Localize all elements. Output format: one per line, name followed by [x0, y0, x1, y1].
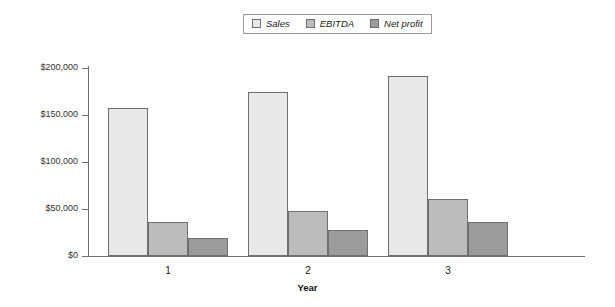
y-axis-tick — [82, 162, 88, 163]
chart-legend: SalesEBITDANet profit — [243, 14, 432, 34]
y-axis-tick-label: $100,000 — [0, 157, 78, 166]
legend-entry[interactable]: Sales — [252, 19, 290, 29]
legend-swatch-icon — [306, 19, 315, 28]
plot-area — [88, 68, 585, 256]
x-axis-tick-label: 3 — [428, 266, 468, 276]
y-axis-tick — [82, 68, 88, 69]
y-axis-tick-label: $50,000 — [0, 204, 78, 213]
bar[interactable] — [248, 92, 288, 256]
legend-label: Sales — [266, 19, 290, 29]
legend-label: EBITDA — [320, 19, 354, 29]
legend-label: Net profit — [384, 19, 423, 29]
bar[interactable] — [428, 199, 468, 256]
x-axis-tick-label: 2 — [288, 266, 328, 276]
y-axis-tick-label: $0 — [0, 251, 78, 260]
bar-chart: SalesEBITDANet profit Year $0$50,000$100… — [0, 0, 615, 307]
y-axis-tick — [82, 115, 88, 116]
bar[interactable] — [388, 76, 428, 256]
x-axis-tick-label: 1 — [148, 266, 188, 276]
legend-entry[interactable]: Net profit — [370, 19, 423, 29]
y-axis-tick-label: $150,000 — [0, 110, 78, 119]
y-axis-tick — [82, 209, 88, 210]
bar[interactable] — [188, 238, 228, 256]
bar[interactable] — [108, 108, 148, 256]
legend-entry[interactable]: EBITDA — [306, 19, 354, 29]
x-axis-line — [88, 256, 585, 257]
x-axis-title: Year — [0, 283, 615, 293]
y-axis-tick — [82, 256, 88, 257]
bar[interactable] — [148, 222, 188, 256]
bar[interactable] — [288, 211, 328, 256]
legend-swatch-icon — [252, 19, 261, 28]
bar[interactable] — [328, 230, 368, 256]
y-axis-tick-label: $200,000 — [0, 63, 78, 72]
legend-swatch-icon — [370, 19, 379, 28]
bar[interactable] — [468, 222, 508, 256]
